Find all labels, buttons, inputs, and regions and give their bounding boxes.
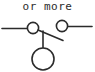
lamp-circle (32, 48, 54, 70)
figure-canvas: or more (0, 0, 95, 72)
right-terminal-circle (56, 20, 67, 31)
left-terminal-circle (27, 22, 38, 33)
schematic-drawing (0, 0, 95, 72)
